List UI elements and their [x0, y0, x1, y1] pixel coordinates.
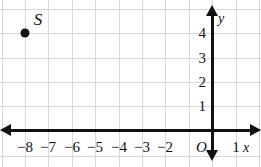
x-axis-line: [8, 129, 253, 132]
y-axis-name-label: y: [218, 12, 224, 26]
x-tick-label: −8: [17, 140, 33, 155]
x-tick-label: −6: [64, 140, 80, 155]
x-tick-label: 1: [232, 140, 240, 155]
x-axis-right-arrow-icon: [250, 124, 261, 136]
point-label-s: S: [34, 11, 43, 28]
y-tick-label: 3: [192, 51, 206, 66]
y-axis-line: [211, 14, 214, 157]
x-tick-label: −4: [111, 140, 127, 155]
coordinate-plane-figure: −8 −7 −6 −5 −4 −3 −2 1 O 4 3 2 1 x y S: [0, 0, 261, 167]
point-marker-s: [21, 29, 30, 38]
x-tick-label: −5: [87, 140, 103, 155]
y-axis-up-arrow-icon: [206, 5, 218, 16]
x-tick-label: −3: [134, 140, 150, 155]
y-axis-down-arrow-icon: [206, 150, 218, 161]
y-tick-label: 4: [192, 26, 206, 41]
origin-label: O: [196, 140, 207, 155]
x-tick-label: −2: [157, 140, 173, 155]
y-tick-label: 2: [192, 75, 206, 90]
x-axis-name-label: x: [243, 141, 249, 155]
x-tick-label: −7: [40, 140, 56, 155]
x-axis-left-arrow-icon: [0, 124, 11, 136]
y-tick-label: 1: [192, 99, 206, 114]
